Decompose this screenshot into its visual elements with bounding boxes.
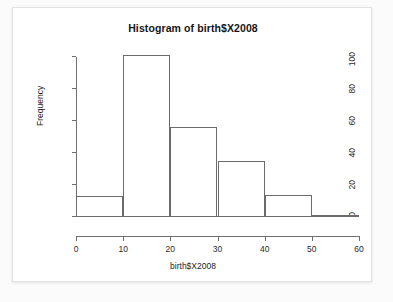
x-tick-label-20: 20	[166, 244, 175, 254]
x-tick-0	[76, 236, 77, 241]
histogram-bar	[123, 55, 170, 217]
y-tick-60	[72, 120, 76, 121]
y-tick-label-80: 80	[347, 84, 357, 93]
y-tick-20	[72, 184, 76, 185]
x-tick-30	[218, 236, 219, 241]
y-tick-100	[72, 56, 76, 57]
screenshot-root: Histogram of birth$X2008 Frequency 02040…	[0, 0, 393, 302]
y-axis-line	[76, 57, 77, 217]
x-tick-label-30: 30	[213, 244, 222, 254]
x-tick-40	[265, 236, 266, 241]
y-tick-label-60: 60	[347, 116, 357, 125]
plot-card: Histogram of birth$X2008 Frequency 02040…	[12, 7, 372, 282]
x-tick-20	[170, 236, 171, 241]
x-tick-60	[359, 236, 360, 241]
chart-title: Histogram of birth$X2008	[13, 22, 373, 34]
histogram-bar	[76, 196, 123, 217]
x-tick-label-60: 60	[354, 244, 363, 254]
x-tick-50	[312, 236, 313, 241]
y-axis-title: Frequency	[35, 86, 45, 126]
histogram-bar	[170, 127, 217, 217]
y-tick-label-20: 20	[347, 180, 357, 189]
x-tick-10	[123, 236, 124, 241]
x-axis: 0102030405060	[76, 217, 359, 263]
y-tick-80	[72, 88, 76, 89]
y-tick-label-40: 40	[347, 148, 357, 157]
y-tick-40	[72, 152, 76, 153]
x-tick-label-10: 10	[118, 244, 127, 254]
x-tick-label-50: 50	[307, 244, 316, 254]
y-tick-label-100: 100	[347, 52, 357, 66]
histogram-bar	[265, 195, 312, 217]
histogram-bar	[218, 161, 265, 217]
x-tick-label-40: 40	[260, 244, 269, 254]
plot-area: 020406080100	[76, 48, 359, 217]
x-tick-label-0: 0	[74, 244, 79, 254]
x-axis-title: birth$X2008	[13, 261, 373, 271]
